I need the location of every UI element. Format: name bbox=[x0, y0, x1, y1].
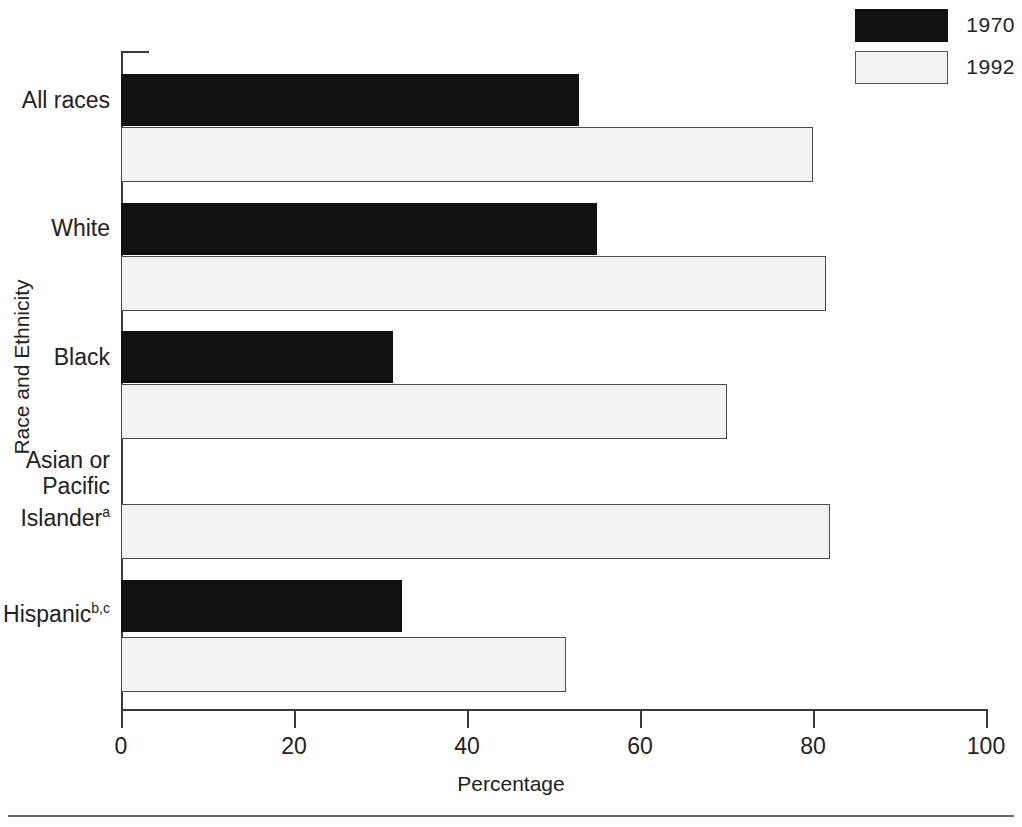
x-tick-label-20: 20 bbox=[281, 733, 307, 760]
y-axis-title: Race and Ethnicity bbox=[10, 167, 34, 567]
bar-white-1992 bbox=[121, 256, 826, 311]
bar-black-1970 bbox=[121, 331, 393, 383]
category-label-line: All races bbox=[0, 87, 110, 113]
category-label-all-races: All races bbox=[0, 87, 110, 113]
footnote-marker: a bbox=[102, 504, 110, 520]
footer-rule bbox=[8, 815, 1014, 817]
footnote-marker: b,c bbox=[91, 600, 110, 616]
legend-item-1992: 1992 bbox=[855, 50, 1015, 84]
legend-swatch-1970 bbox=[855, 9, 948, 42]
x-tick-label-0: 0 bbox=[115, 733, 128, 760]
x-tick-0 bbox=[121, 711, 123, 728]
bar-chart-figure: 1970 1992 All racesWhiteBlackAsian orPac… bbox=[0, 0, 1022, 827]
bar-black-1992 bbox=[121, 384, 727, 439]
chart-legend: 1970 1992 bbox=[855, 8, 1015, 92]
x-tick-80 bbox=[813, 711, 815, 728]
x-tick-60 bbox=[640, 711, 642, 728]
x-axis-line bbox=[121, 709, 988, 711]
x-tick-label-100: 100 bbox=[967, 733, 1005, 760]
bar-all-races-1992 bbox=[121, 127, 813, 182]
x-tick-20 bbox=[294, 711, 296, 728]
x-tick-label-40: 40 bbox=[454, 733, 480, 760]
category-label-hispanic: Hispanicb,c bbox=[0, 595, 110, 627]
bar-all-races-1970 bbox=[121, 74, 579, 126]
x-tick-40 bbox=[467, 711, 469, 728]
x-tick-label-80: 80 bbox=[800, 733, 826, 760]
category-label-line: Hispanicb,c bbox=[0, 595, 110, 627]
bar-hispanic-1992 bbox=[121, 637, 566, 692]
y-axis-top-cap bbox=[121, 51, 149, 53]
bar-asian-or-pacific-islander-1992 bbox=[121, 504, 830, 559]
legend-label-1970: 1970 bbox=[966, 13, 1015, 37]
legend-item-1970: 1970 bbox=[855, 8, 1015, 42]
x-axis-title: Percentage bbox=[0, 772, 1022, 796]
legend-swatch-1992 bbox=[855, 51, 948, 84]
x-tick-label-60: 60 bbox=[627, 733, 653, 760]
bar-hispanic-1970 bbox=[121, 580, 402, 632]
legend-label-1992: 1992 bbox=[966, 55, 1015, 79]
bar-white-1970 bbox=[121, 203, 597, 255]
x-tick-100 bbox=[986, 711, 988, 728]
